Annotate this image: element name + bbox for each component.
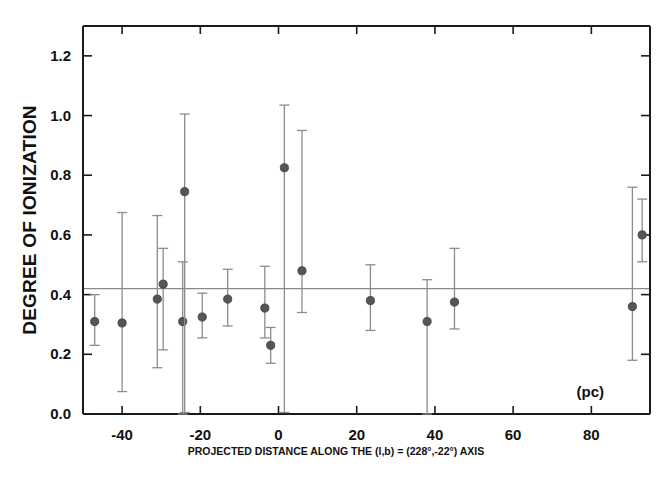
- y-tick-label: 0.2: [50, 345, 71, 362]
- x-tick-label: 20: [348, 426, 365, 443]
- y-tick-label: 0.6: [50, 226, 71, 243]
- data-marker: [181, 188, 189, 196]
- data-marker: [159, 280, 167, 288]
- y-tick-label: 1.0: [50, 107, 71, 124]
- data-marker: [366, 296, 374, 304]
- chart-background: [0, 0, 666, 479]
- data-marker: [267, 341, 275, 349]
- data-marker: [224, 295, 232, 303]
- y-tick-label: 0.8: [50, 166, 71, 183]
- data-marker: [153, 295, 161, 303]
- data-marker: [261, 304, 269, 312]
- figure-container: -40-20020406080 0.00.20.40.60.81.01.2 DE…: [0, 0, 666, 479]
- y-axis-label: DEGREE OF IONIZATION: [19, 105, 40, 335]
- y-tick-label: 1.2: [50, 47, 71, 64]
- x-axis-label: PROJECTED DISTANCE ALONG THE (l,b) = (22…: [188, 445, 485, 457]
- data-marker: [423, 317, 431, 325]
- x-tick-label: 0: [274, 426, 282, 443]
- data-marker: [628, 302, 636, 310]
- x-tick-label: 40: [427, 426, 444, 443]
- data-marker: [91, 317, 99, 325]
- data-marker: [298, 267, 306, 275]
- y-tick-label: 0.4: [50, 286, 72, 303]
- data-marker: [280, 164, 288, 172]
- data-marker: [638, 231, 646, 239]
- data-marker: [450, 298, 458, 306]
- y-tick-label: 0.0: [50, 405, 71, 422]
- data-marker: [198, 313, 206, 321]
- x-tick-label: 60: [505, 426, 522, 443]
- data-marker: [118, 319, 126, 327]
- x-tick-label: 80: [583, 426, 600, 443]
- x-tick-label: -20: [189, 426, 211, 443]
- data-marker: [179, 317, 187, 325]
- x-tick-label: -40: [111, 426, 133, 443]
- ionization-scatter-chart: -40-20020406080 0.00.20.40.60.81.01.2 DE…: [0, 0, 666, 479]
- x-unit-annotation: (pc): [577, 383, 605, 400]
